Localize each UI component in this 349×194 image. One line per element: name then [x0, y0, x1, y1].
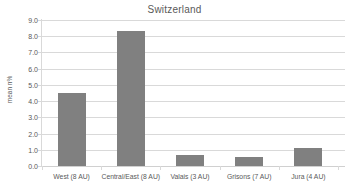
x-axis-tick-mark: [279, 166, 280, 170]
bar[interactable]: [117, 31, 145, 166]
x-axis-tick-mark: [101, 166, 102, 170]
y-axis-title: mean n%: [6, 65, 13, 115]
y-axis-tick-label: 9.0: [14, 17, 38, 24]
y-axis-tick-label: 4.0: [14, 98, 38, 105]
bar[interactable]: [235, 157, 263, 166]
chart-title: Switzerland: [0, 4, 349, 15]
x-axis-tick-mark: [42, 166, 43, 170]
y-axis-tick-label: 0.0: [14, 163, 38, 170]
y-axis-tick-label: 2.0: [14, 131, 38, 138]
bar-chart: Switzerland mean n% 9.08.07.06.05.04.03.…: [0, 0, 349, 194]
plot-area: [42, 20, 338, 166]
y-axis-tick-label: 7.0: [14, 49, 38, 56]
x-axis-category-label: Jura (4 AU): [279, 173, 338, 180]
x-axis-category-label: Central/East (8 AU): [101, 173, 160, 180]
bar[interactable]: [294, 148, 322, 166]
bar[interactable]: [176, 155, 204, 166]
y-axis-tick-label: 8.0: [14, 33, 38, 40]
y-axis-tick-label: 6.0: [14, 66, 38, 73]
x-axis-tick-mark: [220, 166, 221, 170]
gridline: [42, 166, 345, 167]
x-axis-category-label: Grisons (7 AU): [220, 173, 279, 180]
y-axis-tick-label: 5.0: [14, 82, 38, 89]
y-axis-tick-label: 1.0: [14, 147, 38, 154]
x-axis-category-label: Valais (3 AU): [160, 173, 219, 180]
x-axis-category-label: West (8 AU): [42, 173, 101, 180]
bar[interactable]: [58, 93, 86, 166]
x-axis-tick-mark: [160, 166, 161, 170]
x-axis-tick-mark: [338, 166, 339, 170]
y-axis-tick-label: 3.0: [14, 114, 38, 121]
